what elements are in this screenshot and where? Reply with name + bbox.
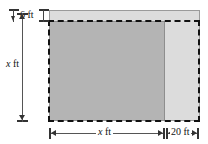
x-ft-horizontal-label: x ft: [96, 126, 113, 137]
x-ft-vertical-label: x ft: [6, 58, 19, 69]
x-ft-bottom-right-tick: [163, 128, 165, 139]
x-ft-bottom-arrow-left: [51, 130, 56, 136]
geometry-figure: 6 ft x ft x ft 20 ft: [0, 0, 208, 144]
six-ft-right-top-tick: [39, 9, 49, 11]
six-ft-left-arrow-down: [11, 16, 15, 21]
x-ft-left-line: [22, 13, 23, 122]
x-ft-horizontal-unit: ft: [105, 126, 111, 137]
x-ft-left-arrow-up: [19, 14, 25, 19]
x-ft-horizontal-variable: x: [98, 126, 102, 137]
x-ft-bottom-arrow-right: [158, 130, 163, 136]
twenty-ft-label: 20 ft: [170, 126, 191, 137]
x-ft-vertical-unit: ft: [13, 58, 19, 69]
six-ft-right-line: [43, 10, 44, 22]
twenty-ft-right-tick: [197, 128, 199, 139]
six-ft-left-top-tick: [9, 9, 19, 11]
x-ft-left-arrow-down: [19, 115, 25, 120]
x-ft-vertical-variable: x: [6, 58, 10, 69]
twenty-ft-arrow-right: [192, 130, 197, 136]
six-ft-right-bottom-tick: [39, 20, 49, 22]
dashed-outline-rectangle: [48, 20, 200, 122]
